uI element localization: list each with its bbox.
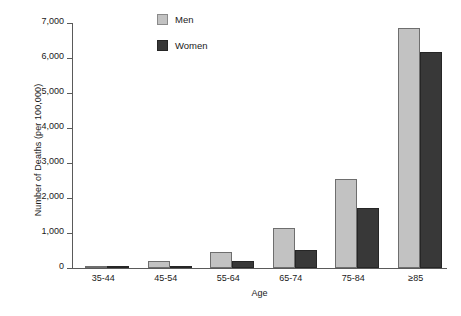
y-tick-label: 2,000 [41, 191, 64, 201]
y-tick-label: 1,000 [41, 226, 64, 236]
x-tick-label: ≥85 [376, 273, 456, 283]
y-tick: 4,000 [67, 128, 72, 129]
bar-men-3544 [85, 266, 107, 268]
bar-group [266, 23, 324, 268]
bar-chart-figure: Number of Deaths (per 100,000) 01,0002,0… [0, 0, 461, 316]
bar-group [78, 23, 136, 268]
y-tick-label: 3,000 [41, 156, 64, 166]
y-tick-label: 7,000 [41, 16, 64, 26]
bar-men-85 [398, 28, 420, 268]
y-tick: 3,000 [67, 163, 72, 164]
legend-swatch-women-icon [157, 40, 168, 51]
bar-group [141, 23, 199, 268]
y-tick: 0 [67, 268, 72, 269]
legend-label-men: Men [175, 14, 193, 25]
bar-men-7584 [335, 179, 357, 268]
legend-swatch-men-icon [157, 14, 168, 25]
plot-area: 01,0002,0003,0004,0005,0006,0007,000 35-… [72, 23, 447, 268]
bar-women-7584 [357, 208, 379, 268]
y-tick: 2,000 [67, 198, 72, 199]
bar-group [328, 23, 386, 268]
bar-women-5564 [232, 261, 254, 268]
x-axis-title: Age [72, 288, 447, 298]
bar-men-5564 [210, 252, 232, 268]
y-tick-label: 0 [59, 261, 64, 271]
y-tick-label: 4,000 [41, 121, 64, 131]
y-tick: 7,000 [67, 23, 72, 24]
bar-women-85 [420, 52, 442, 268]
bar-men-4554 [148, 261, 170, 268]
y-tick-label: 5,000 [41, 86, 64, 96]
bar-women-3544 [107, 266, 129, 268]
x-axis-line [72, 268, 447, 269]
bar-men-6574 [273, 228, 295, 268]
bar-group [391, 23, 449, 268]
bar-women-6574 [295, 250, 317, 268]
y-tick-label: 6,000 [41, 51, 64, 61]
legend-label-women: Women [175, 40, 208, 51]
legend-item-women: Women [157, 39, 208, 51]
y-tick: 6,000 [67, 58, 72, 59]
legend-item-men: Men [157, 13, 193, 25]
y-tick: 5,000 [67, 93, 72, 94]
bar-women-4554 [170, 266, 192, 268]
y-axis-title: Number of Deaths (per 100,000) [33, 50, 43, 250]
y-axis-line [72, 23, 73, 269]
y-tick: 1,000 [67, 233, 72, 234]
bar-group [203, 23, 261, 268]
